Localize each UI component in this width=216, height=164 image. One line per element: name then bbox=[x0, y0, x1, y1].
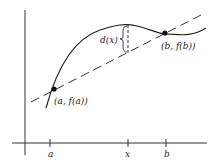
label-point-b: (b, f(b)) bbox=[161, 41, 196, 51]
mvt-diagram: d(x) (a, f(a)) (b, f(b)) a x b bbox=[0, 0, 216, 164]
label-tick-b: b bbox=[164, 149, 170, 159]
label-tick-x: x bbox=[125, 149, 130, 159]
point-b-marker bbox=[162, 30, 167, 35]
label-point-a: (a, f(a)) bbox=[54, 96, 88, 106]
label-distance: d(x) bbox=[100, 35, 118, 45]
point-a-marker bbox=[51, 86, 56, 91]
brace-icon bbox=[120, 26, 127, 52]
label-tick-a: a bbox=[48, 149, 53, 159]
